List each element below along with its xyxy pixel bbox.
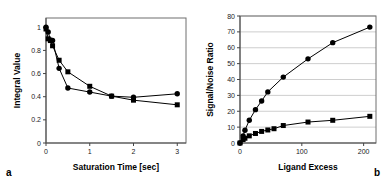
plot-frame — [46, 18, 186, 143]
y-tick-label: 80 — [227, 13, 235, 20]
chart-b: 010203040506070800100200Ligand ExcessSig… — [196, 0, 391, 186]
data-point-square — [57, 58, 62, 63]
y-tick-label: 0.8 — [31, 47, 41, 54]
data-point-square — [306, 120, 311, 125]
x-tick-label: 100 — [296, 148, 308, 155]
y-axis-title: Signal/Noise Ratio — [205, 42, 215, 117]
x-axis-title: Saturation Time [sec] — [73, 162, 159, 172]
data-point-circle — [87, 89, 92, 94]
chart-a: 00.20.40.60.810123Saturation Time [sec]I… — [0, 0, 196, 186]
data-point-square — [87, 84, 92, 89]
data-point-circle — [175, 91, 180, 96]
y-tick-label: 40 — [227, 76, 235, 83]
data-point-square — [50, 43, 55, 48]
data-point-circle — [281, 74, 286, 79]
data-point-square — [265, 127, 270, 132]
data-point-square — [44, 26, 49, 31]
data-point-circle — [65, 85, 70, 90]
x-tick-label: 0 — [238, 148, 242, 155]
y-tick-label: 20 — [227, 108, 235, 115]
y-tick-label: 0 — [231, 140, 235, 147]
y-tick-label: 1 — [37, 24, 41, 31]
data-point-circle — [330, 40, 335, 45]
data-point-circle — [265, 89, 270, 94]
series-squares — [238, 114, 373, 146]
y-tick-label: 10 — [227, 124, 235, 131]
data-point-square — [48, 38, 53, 43]
y-tick-label: 60 — [227, 44, 235, 51]
figure-root: 00.20.40.60.810123Saturation Time [sec]I… — [0, 0, 391, 186]
data-point-square — [281, 123, 286, 128]
x-tick-label: 2 — [132, 148, 136, 155]
x-tick-label: 3 — [175, 148, 179, 155]
series-circles — [43, 25, 180, 100]
y-tick-label: 0.6 — [31, 70, 41, 77]
data-point-circle — [259, 98, 264, 103]
data-point-square — [253, 131, 258, 136]
panel-b: 010203040506070800100200Ligand ExcessSig… — [196, 0, 391, 186]
data-point-circle — [253, 107, 258, 112]
data-point-square — [242, 136, 247, 141]
data-point-circle — [56, 66, 61, 71]
data-point-circle — [367, 24, 372, 29]
y-tick-label: 0.2 — [31, 116, 41, 123]
x-tick-label: 1 — [88, 148, 92, 155]
y-axis-title: Integral Value — [12, 53, 22, 109]
data-point-square — [175, 102, 180, 107]
panel-a: 00.20.40.60.810123Saturation Time [sec]I… — [0, 0, 196, 186]
y-tick-label: 50 — [227, 60, 235, 67]
x-tick-label: 0 — [44, 148, 48, 155]
data-point-square — [259, 129, 264, 134]
series-circles — [237, 24, 372, 145]
panel-a-label: a — [6, 168, 12, 178]
series-line — [240, 27, 370, 143]
data-point-square — [330, 118, 335, 123]
data-point-circle — [305, 56, 310, 61]
data-point-circle — [242, 128, 247, 133]
data-point-square — [272, 126, 277, 131]
y-tick-label: 70 — [227, 28, 235, 35]
data-point-square — [131, 98, 136, 103]
data-point-circle — [247, 118, 252, 123]
data-point-square — [109, 94, 114, 99]
panel-b-label: b — [374, 168, 380, 178]
data-point-square — [247, 133, 252, 138]
data-point-square — [367, 114, 372, 119]
y-tick-label: 30 — [227, 92, 235, 99]
x-tick-label: 200 — [358, 148, 370, 155]
y-tick-label: 0.4 — [31, 93, 41, 100]
x-axis-title: Ligand Excess — [278, 162, 338, 172]
data-point-square — [65, 69, 70, 74]
y-tick-label: 0 — [37, 140, 41, 147]
